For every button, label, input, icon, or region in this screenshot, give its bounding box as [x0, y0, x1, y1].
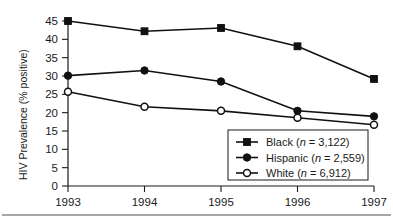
data-point-hispanic: [294, 107, 301, 114]
y-tick-label: 35: [45, 52, 58, 64]
y-tick-label: 0: [52, 180, 58, 192]
data-point-black: [218, 25, 225, 32]
data-point-white: [141, 103, 148, 110]
x-tick-label: 1996: [285, 196, 311, 208]
data-point-white: [218, 107, 225, 114]
x-tick-label: 1994: [132, 196, 158, 208]
legend-sample-marker: [244, 170, 251, 177]
data-point-black: [294, 43, 301, 50]
hiv-prevalence-line-chart: HIV Prevalence (% positive) 051015202530…: [0, 0, 393, 223]
y-tick-label: 40: [45, 33, 58, 45]
y-tick-label: 45: [45, 15, 58, 27]
data-point-hispanic: [141, 67, 148, 74]
data-point-hispanic: [217, 78, 224, 85]
y-axis-title: HIV Prevalence (% positive): [17, 49, 29, 180]
x-tick-label: 1997: [361, 196, 387, 208]
data-point-white: [294, 114, 301, 121]
y-tick-label: 10: [45, 143, 58, 155]
chart-background: [0, 0, 393, 223]
y-tick-label: 30: [45, 70, 58, 82]
legend-sample-marker: [243, 154, 250, 161]
legend-item-label: Hispanic (n = 2,559): [266, 152, 365, 164]
data-point-black: [141, 28, 148, 35]
chart-figure: HIV Prevalence (% positive) 051015202530…: [0, 0, 393, 223]
y-tick-label: 5: [52, 162, 58, 174]
data-point-white: [371, 121, 378, 128]
legend-item-label: Black (n = 3,122): [266, 136, 349, 148]
x-tick-label: 1995: [208, 196, 234, 208]
y-tick-label: 25: [45, 88, 58, 100]
chart-legend: Black (n = 3,122)Hispanic (n = 2,559)Whi…: [228, 130, 368, 180]
legend-sample-marker: [244, 139, 251, 146]
y-tick-label: 15: [45, 125, 58, 137]
x-tick-label: 1993: [55, 196, 81, 208]
y-tick-label: 20: [45, 107, 58, 119]
legend-item-label: White (n = 6,912): [266, 167, 351, 179]
data-point-white: [65, 88, 72, 95]
data-point-black: [371, 76, 378, 83]
y-axis-title-text: HIV Prevalence (% positive): [17, 49, 29, 180]
data-point-black: [65, 18, 72, 25]
data-point-hispanic: [64, 72, 71, 79]
data-point-hispanic: [370, 113, 377, 120]
